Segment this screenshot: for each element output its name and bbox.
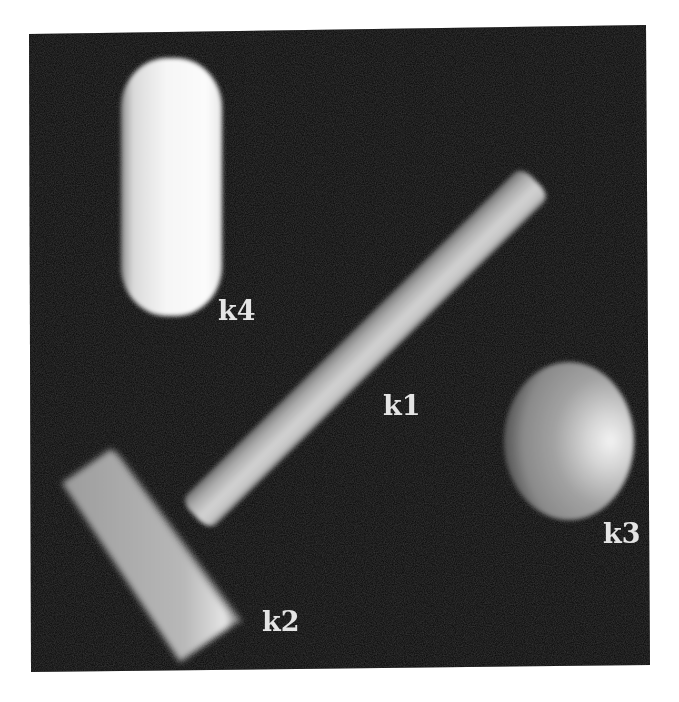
rendered-shapes-canvas — [0, 0, 679, 702]
label-k1: k1 — [383, 392, 421, 419]
object-k4-capsule — [121, 58, 222, 316]
label-k4: k4 — [218, 297, 256, 324]
object-k3-ellipsoid — [504, 362, 634, 520]
label-k2: k2 — [262, 608, 300, 635]
figure-scene: k4 k1 k3 k2 — [0, 0, 679, 702]
label-k3: k3 — [603, 520, 641, 547]
